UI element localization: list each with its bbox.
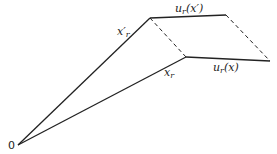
dashed-connector-right <box>226 15 270 61</box>
label-u-r-x: ur(x) <box>213 62 239 75</box>
label-x-r: xr <box>164 67 174 80</box>
origin-label: 0 <box>8 140 15 151</box>
vector-diagram <box>0 0 277 154</box>
label-x-prime-r: x′r <box>117 26 130 39</box>
vector-x-r <box>18 57 186 145</box>
label-u-r-x-prime: ur(x′) <box>175 3 203 16</box>
dashed-connector-left <box>150 18 186 57</box>
vector-x-prime-r <box>18 18 150 145</box>
